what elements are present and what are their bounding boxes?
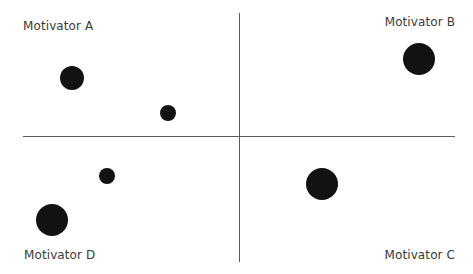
quadrant-label-motivator-b: Motivator B	[385, 15, 455, 29]
bubble-point	[60, 66, 84, 90]
bubble-point	[160, 105, 176, 121]
vertical-axis	[239, 13, 240, 262]
bubble-point	[403, 43, 435, 75]
bubble-point	[99, 168, 115, 184]
bubble-point	[306, 168, 338, 200]
quadrant-label-motivator-a: Motivator A	[23, 19, 93, 33]
quadrant-label-motivator-c: Motivator C	[385, 248, 455, 262]
quadrant-bubble-chart: Motivator A Motivator B Motivator C Moti…	[0, 0, 473, 274]
quadrant-label-motivator-d: Motivator D	[24, 248, 95, 262]
bubble-point	[36, 204, 68, 236]
